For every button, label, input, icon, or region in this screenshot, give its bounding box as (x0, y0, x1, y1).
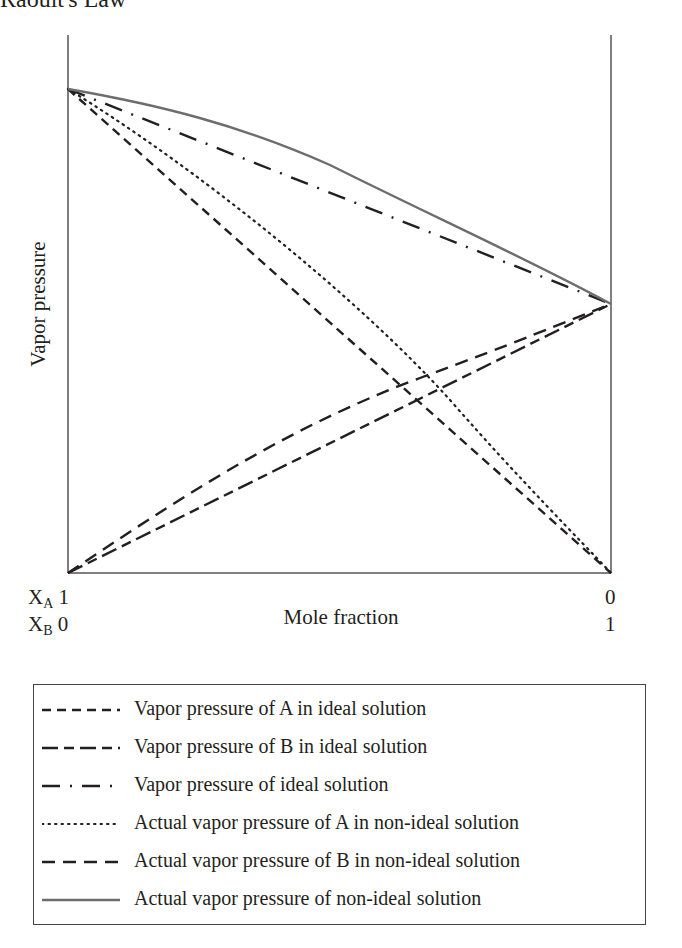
dash-dot-swatch-icon (42, 779, 122, 793)
xa-label-left: XA 1 (28, 585, 69, 612)
xb-label-right: 1 (605, 612, 616, 637)
legend-item-ideal-a: Vapor pressure of A in ideal solution (34, 695, 645, 727)
legend-label: Vapor pressure of ideal solution (134, 773, 388, 796)
legend-item-ideal-total: Vapor pressure of ideal solution (34, 771, 645, 803)
legend: Vapor pressure of A in ideal solution Va… (33, 684, 646, 925)
y-axis-label: Vapor pressure (26, 241, 51, 366)
xb-label-left: XB 10 (28, 612, 68, 639)
legend-item-ideal-b: Vapor pressure of B in ideal solution (34, 733, 645, 765)
dotted-swatch-icon (42, 817, 122, 831)
solid-line-swatch-icon (42, 893, 122, 907)
legend-item-actual-b: Actual vapor pressure of B in non-ideal … (34, 847, 645, 879)
plot-area (0, 0, 682, 660)
short-dash-swatch-icon (42, 703, 122, 717)
series-ideal-total (68, 89, 611, 304)
legend-label: Actual vapor pressure of non-ideal solut… (134, 887, 481, 910)
legend-label: Actual vapor pressure of A in non-ideal … (134, 811, 519, 834)
series-ideal-a (68, 89, 611, 573)
series-ideal-b (68, 304, 611, 573)
xa-label-right: 0 (605, 585, 616, 610)
legend-label: Vapor pressure of A in ideal solution (134, 697, 426, 720)
x-axis-label: Mole fraction (284, 605, 399, 630)
legend-item-actual-a: Actual vapor pressure of A in non-ideal … (34, 809, 645, 841)
legend-item-actual-total: Actual vapor pressure of non-ideal solut… (34, 885, 645, 917)
long-short-dash-swatch-icon (42, 741, 122, 755)
medium-dash-swatch-icon (42, 855, 122, 869)
legend-label: Actual vapor pressure of B in non-ideal … (134, 849, 520, 872)
legend-label: Vapor pressure of B in ideal solution (134, 735, 427, 758)
